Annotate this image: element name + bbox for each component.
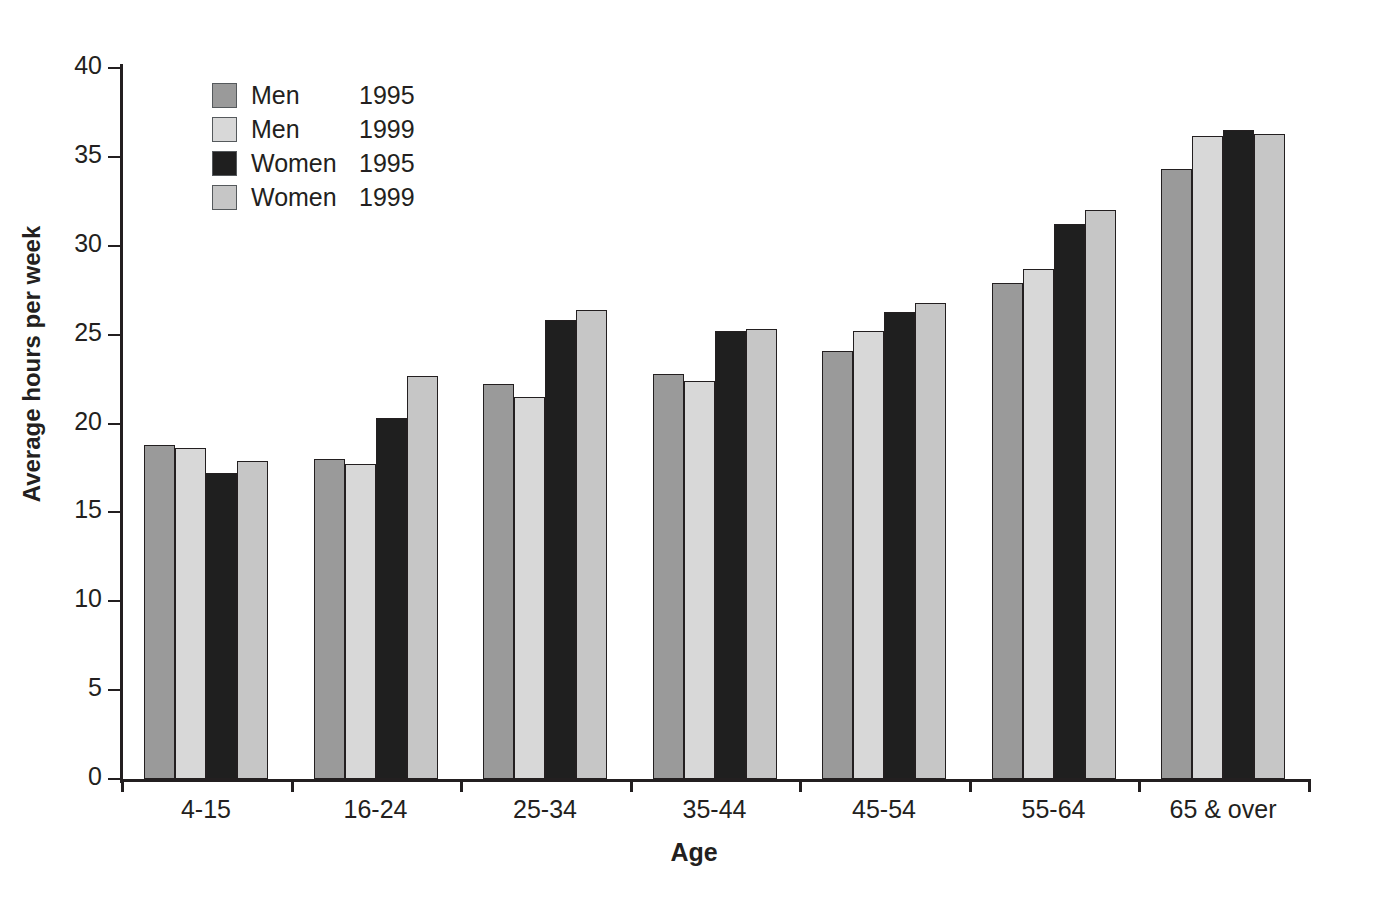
x-axis-category-label: 35-44 <box>625 795 805 824</box>
bar <box>144 445 175 779</box>
bar <box>237 461 268 779</box>
x-axis-category-label: 4-15 <box>116 795 296 824</box>
legend-swatch-icon <box>212 185 237 210</box>
y-axis-tick-label: 30 <box>50 229 102 258</box>
legend-item-label: Women <box>251 183 359 212</box>
x-axis-tick <box>969 779 972 792</box>
x-axis-category-label: 16-24 <box>286 795 466 824</box>
x-axis-tick <box>1138 779 1141 792</box>
bar-chart: Average hours per week 0510152025303540 … <box>0 0 1388 906</box>
bar <box>545 320 576 779</box>
x-axis-tick <box>630 779 633 792</box>
legend-swatch-icon <box>212 117 237 142</box>
x-axis-title: Age <box>0 838 1388 867</box>
x-axis-category-label: 65 & over <box>1133 795 1313 824</box>
bar-group <box>822 68 946 779</box>
y-axis-tick <box>108 423 120 425</box>
bar <box>653 374 684 779</box>
bar <box>483 384 514 779</box>
bar <box>1223 130 1254 779</box>
y-axis-tick-label: 10 <box>50 584 102 613</box>
bar <box>514 397 545 779</box>
x-axis-category-label: 25-34 <box>455 795 635 824</box>
bar <box>915 303 946 779</box>
y-axis-tick <box>108 600 120 602</box>
y-axis-tick <box>108 511 120 513</box>
bar-group <box>992 68 1116 779</box>
y-axis-tick <box>108 778 120 780</box>
bar <box>1023 269 1054 779</box>
bar <box>853 331 884 779</box>
y-axis-tick-label: 5 <box>50 673 102 702</box>
legend-item-label: Women <box>251 149 359 178</box>
bar <box>206 473 237 779</box>
bar <box>992 283 1023 779</box>
chart-legend: Men1995Men1999Women1995Women1999 <box>212 78 415 214</box>
bar <box>407 376 438 779</box>
y-axis-tick-label: 25 <box>50 318 102 347</box>
bar <box>576 310 607 779</box>
y-axis-tick-label: 35 <box>50 140 102 169</box>
legend-item: Men1995 <box>212 78 415 112</box>
legend-item-year: 1999 <box>359 183 415 212</box>
legend-item: Women1999 <box>212 180 415 214</box>
legend-swatch-icon <box>212 151 237 176</box>
y-axis-tick-label: 15 <box>50 495 102 524</box>
bar <box>1054 224 1085 779</box>
legend-item: Women1995 <box>212 146 415 180</box>
bar-group <box>483 68 607 779</box>
bar <box>345 464 376 779</box>
x-axis-line <box>120 779 1310 782</box>
x-axis-tick <box>121 779 124 792</box>
x-axis-tick <box>460 779 463 792</box>
legend-item-year: 1995 <box>359 81 415 110</box>
bar <box>1085 210 1116 779</box>
y-axis-tick-label: 0 <box>50 762 102 791</box>
legend-item-year: 1999 <box>359 115 415 144</box>
y-axis-tick-label: 20 <box>50 407 102 436</box>
bar <box>746 329 777 779</box>
bar <box>314 459 345 779</box>
bar <box>822 351 853 779</box>
legend-item-year: 1995 <box>359 149 415 178</box>
y-axis-tick <box>108 245 120 247</box>
legend-item: Men1999 <box>212 112 415 146</box>
y-axis-tick-label: 40 <box>50 51 102 80</box>
bar <box>684 381 715 779</box>
bar <box>1254 134 1285 779</box>
legend-item-label: Men <box>251 81 359 110</box>
y-axis-title: Average hours per week <box>18 44 46 684</box>
bar <box>715 331 746 779</box>
x-axis-tick <box>799 779 802 792</box>
y-axis-tick <box>108 67 120 69</box>
bar <box>1192 136 1223 779</box>
y-axis-tick <box>108 156 120 158</box>
bar <box>175 448 206 779</box>
y-axis-tick <box>108 334 120 336</box>
bar-group <box>653 68 777 779</box>
bar-group <box>1161 68 1285 779</box>
x-axis-category-label: 55-64 <box>964 795 1144 824</box>
legend-swatch-icon <box>212 83 237 108</box>
y-axis-tick <box>108 689 120 691</box>
x-axis-category-label: 45-54 <box>794 795 974 824</box>
x-axis-tick <box>291 779 294 792</box>
bar <box>1161 169 1192 779</box>
bar <box>884 312 915 779</box>
legend-item-label: Men <box>251 115 359 144</box>
x-axis-tick <box>1308 779 1311 792</box>
bar <box>376 418 407 779</box>
